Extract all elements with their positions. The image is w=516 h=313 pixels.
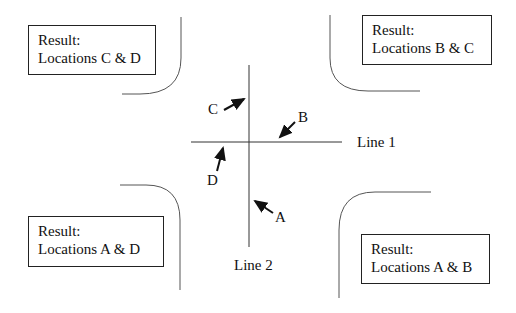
arrow-a <box>255 201 273 213</box>
location-label-a: A <box>275 209 286 225</box>
arrow-c <box>224 99 244 110</box>
result-text: Locations B & C <box>372 39 491 57</box>
result-title: Result: <box>371 240 489 258</box>
location-label-d: D <box>207 172 218 188</box>
result-text: Locations C & D <box>38 49 155 67</box>
result-box-bottom-right: Result: Locations A & B <box>361 234 490 284</box>
result-box-bottom-left: Result: Locations A & D <box>28 216 164 267</box>
line-2-label: Line 2 <box>234 257 273 273</box>
result-box-top-left: Result: Locations C & D <box>28 25 156 75</box>
line-1-label: Line 1 <box>357 134 396 150</box>
arrow-b <box>280 122 295 137</box>
result-title: Result: <box>38 31 155 49</box>
result-text: Locations A & B <box>371 258 489 276</box>
location-label-b: B <box>298 109 308 125</box>
result-box-top-right: Result: Locations B & C <box>362 15 492 65</box>
result-title: Result: <box>372 21 491 39</box>
arrow-d <box>217 148 223 171</box>
result-text: Locations A & D <box>38 240 163 258</box>
location-label-c: C <box>208 101 218 117</box>
result-title: Result: <box>38 222 163 240</box>
